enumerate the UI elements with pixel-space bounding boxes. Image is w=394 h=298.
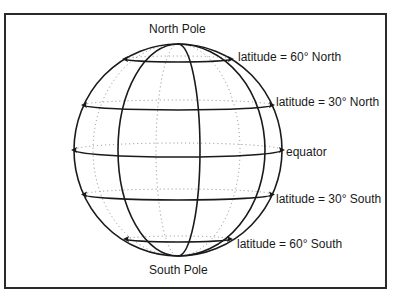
south-pole-label: South Pole [149, 264, 208, 276]
latitude-30-north-label: latitude = 30° North [276, 96, 379, 108]
globe-diagram [0, 0, 394, 298]
parallel-equator [74, 150, 282, 157]
equator-label: equator [286, 146, 327, 158]
latitude-60-north-label: latitude = 60° North [238, 51, 341, 63]
hidden-meridian-2 [178, 44, 240, 256]
meridian-0 [118, 44, 178, 256]
parallel-lat_60_north [125, 59, 231, 62]
hidden-parallel-lat_60_north [125, 56, 231, 59]
hidden-parallel-lat_30_south [84, 189, 272, 195]
hidden-parallel-equator [74, 143, 282, 150]
hidden-parallel-lat_60_south [126, 236, 230, 239]
latitude-60-south-label: latitude = 60° South [237, 238, 342, 250]
arrow-right-lat_60_north [228, 56, 234, 62]
label-arrows [71, 56, 285, 242]
parallel-lat_30_south [84, 195, 272, 201]
north-pole-label: North Pole [149, 23, 206, 35]
latitude-30-south-label: latitude = 30° South [276, 193, 381, 205]
meridian-1 [178, 44, 200, 256]
hidden-grid-lines [74, 44, 282, 256]
parallel-lat_30_north [84, 105, 272, 110]
visible-grid-lines [74, 44, 282, 256]
parallel-lat_60_south [126, 239, 230, 242]
arrow-left-lat_60_north [122, 56, 128, 62]
hidden-meridian-1 [156, 44, 178, 256]
hidden-parallel-lat_30_north [84, 100, 272, 105]
globe-outline [74, 44, 282, 256]
